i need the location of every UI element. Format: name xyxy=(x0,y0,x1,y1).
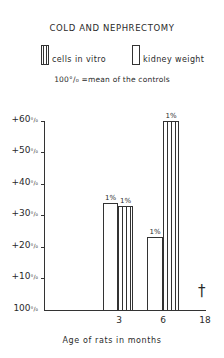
sig-label: 1% xyxy=(118,197,133,205)
tickmark xyxy=(41,215,44,216)
sig-label: 1% xyxy=(103,194,118,202)
legend-label-kidney-weight: kidney weight xyxy=(143,55,204,64)
control-note: 100°/₀ =mean of the controls xyxy=(0,75,224,84)
tickmark xyxy=(41,278,44,279)
ytick-20: +20°/₀ xyxy=(0,240,38,250)
ytick-60: +60°/₀ xyxy=(0,114,38,124)
ytick-100: 100°/₀ xyxy=(0,303,38,313)
sig-label: 1% xyxy=(147,228,163,236)
ytick-50: +50°/₀ xyxy=(0,145,38,155)
sig-label: 1% xyxy=(163,112,179,120)
x-axis-label: Age of rats in months xyxy=(0,336,224,345)
tickmark xyxy=(41,247,44,248)
bar-6-cells-in-vitro xyxy=(163,121,179,310)
legend-swatch-cells-in-vitro xyxy=(41,45,49,65)
bar-3-cells-in-vitro xyxy=(118,206,133,310)
x-axis xyxy=(44,310,206,311)
tickmark xyxy=(41,121,44,122)
xtick-3: 3 xyxy=(109,315,129,325)
dagger-marker-18: † xyxy=(198,282,206,300)
tickmark xyxy=(41,184,44,185)
xtick-18: 18 xyxy=(195,315,215,325)
legend-swatch-kidney-weight xyxy=(132,45,140,65)
tickmark xyxy=(41,152,44,153)
ytick-40: +40°/₀ xyxy=(0,177,38,187)
y-axis xyxy=(44,121,45,311)
xtick-6: 6 xyxy=(153,315,173,325)
bar-3-kidney-weight xyxy=(103,203,118,310)
bar-6-kidney-weight xyxy=(147,237,163,310)
chart-title: COLD AND NEPHRECTOMY xyxy=(0,23,224,33)
ytick-10: +10°/₀ xyxy=(0,271,38,281)
legend-label-cells-in-vitro: cells in vitro xyxy=(52,55,106,64)
ytick-30: +30°/₀ xyxy=(0,208,38,218)
